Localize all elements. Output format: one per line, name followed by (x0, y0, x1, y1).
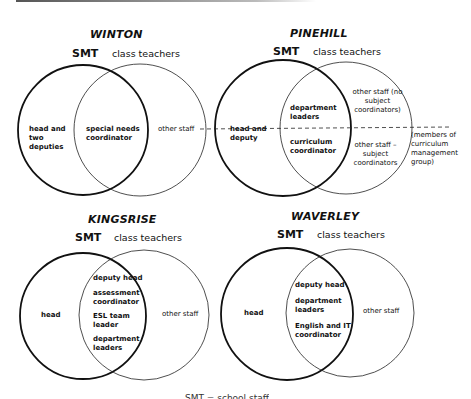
overlap-label: assessment coordinator (93, 289, 145, 307)
overlap-label: deputy head (93, 274, 145, 283)
venn-circles (235, 190, 471, 390)
left-only-label: head and two deputies (29, 125, 69, 152)
venn-winton: WINTON SMT class teachers head and two d… (0, 0, 235, 200)
caption: SMT = school staff (185, 391, 269, 399)
overlap-label: deputy head (295, 281, 355, 290)
venn-waverley: WAVERLEY SMT class teachers head deputy … (235, 190, 471, 390)
overlap-label: department leaders (93, 335, 145, 353)
venn-circles (0, 0, 235, 200)
overlap-lower-label: curriculum coordinator (290, 138, 338, 156)
overlap-upper-label: department leaders (290, 104, 338, 122)
overlap-label: department leaders (295, 297, 347, 315)
right-only-label: other staff (158, 125, 194, 134)
venn-pinehill: PINEHILL SMT class teachers head and dep… (235, 0, 471, 200)
right-upper-label: other staff (no subject coordinators) (350, 88, 405, 115)
curriculum-group-note: (members of curriculum management group) (411, 131, 469, 167)
left-only-label: head (41, 311, 60, 320)
venn-kingsrise: KINGSRISE SMT class teachers head deputy… (0, 190, 235, 390)
right-only-label: other staff (162, 310, 198, 319)
right-lower-label: other staff – subject coordinators (353, 141, 398, 168)
overlap-label: ESL team leader (93, 312, 135, 330)
overlap-label: English and IT coordinator (295, 322, 355, 340)
right-only-label: other staff (363, 307, 399, 316)
left-only-label: head and deputy (230, 125, 270, 143)
left-only-label: head (244, 309, 263, 318)
overlap-label: special needs coordinator (86, 125, 141, 143)
